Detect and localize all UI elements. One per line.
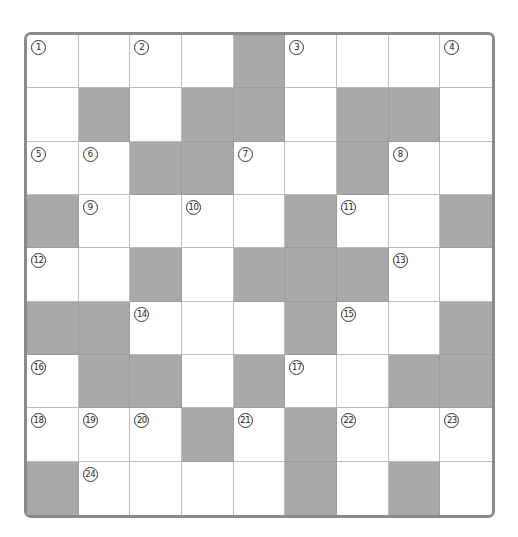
answer-cell[interactable]: 5 [27,142,79,195]
answer-cell[interactable] [337,355,389,408]
answer-cell[interactable]: 22 [337,408,389,461]
clue-number-badge: 6 [83,147,98,162]
answer-cell[interactable]: 24 [79,462,131,515]
answer-cell[interactable]: 23 [440,408,492,461]
block-cell [79,88,131,141]
answer-cell[interactable]: 13 [389,248,441,301]
answer-cell[interactable]: 21 [234,408,286,461]
block-cell [234,248,286,301]
block-cell [130,355,182,408]
answer-cell[interactable] [440,88,492,141]
clue-number-badge: 17 [289,360,304,375]
block-cell [234,88,286,141]
answer-cell[interactable] [389,408,441,461]
answer-cell[interactable]: 11 [337,195,389,248]
block-cell [79,355,131,408]
clue-number-badge: 24 [83,467,98,482]
answer-cell[interactable]: 14 [130,302,182,355]
answer-cell[interactable]: 6 [79,142,131,195]
block-cell [285,408,337,461]
answer-cell[interactable] [389,35,441,88]
clue-number-badge: 4 [444,40,459,55]
answer-cell[interactable] [182,35,234,88]
answer-cell[interactable] [234,462,286,515]
block-cell [27,462,79,515]
answer-cell[interactable]: 8 [389,142,441,195]
answer-cell[interactable] [79,248,131,301]
answer-cell[interactable] [440,142,492,195]
block-cell [337,88,389,141]
block-cell [182,408,234,461]
answer-cell[interactable]: 4 [440,35,492,88]
block-cell [440,195,492,248]
answer-cell[interactable]: 10 [182,195,234,248]
block-cell [234,355,286,408]
answer-cell[interactable] [285,142,337,195]
answer-cell[interactable] [389,302,441,355]
answer-cell[interactable]: 3 [285,35,337,88]
clue-number-badge: 8 [393,147,408,162]
block-cell [285,248,337,301]
answer-cell[interactable]: 2 [130,35,182,88]
block-cell [285,302,337,355]
answer-cell[interactable] [130,462,182,515]
clue-number-badge: 9 [83,200,98,215]
answer-cell[interactable] [182,248,234,301]
answer-cell[interactable] [389,195,441,248]
answer-cell[interactable] [337,462,389,515]
answer-cell[interactable] [234,195,286,248]
answer-cell[interactable]: 16 [27,355,79,408]
clue-number-badge: 22 [341,413,356,428]
block-cell [440,302,492,355]
answer-cell[interactable] [440,248,492,301]
answer-cell[interactable] [182,462,234,515]
clue-number-badge: 21 [238,413,253,428]
answer-cell[interactable] [234,302,286,355]
answer-cell[interactable]: 18 [27,408,79,461]
crossword-grid: 123456789101112131415161718192021222324 [27,35,492,515]
clue-number-badge: 10 [186,200,201,215]
answer-cell[interactable] [27,88,79,141]
answer-cell[interactable]: 19 [79,408,131,461]
block-cell [182,142,234,195]
answer-cell[interactable]: 17 [285,355,337,408]
answer-cell[interactable] [182,355,234,408]
answer-cell[interactable]: 15 [337,302,389,355]
clue-number-badge: 16 [31,360,46,375]
answer-cell[interactable] [182,302,234,355]
answer-cell[interactable] [440,462,492,515]
block-cell [389,462,441,515]
block-cell [389,88,441,141]
crossword-board: 123456789101112131415161718192021222324 [24,32,495,518]
answer-cell[interactable]: 1 [27,35,79,88]
answer-cell[interactable]: 20 [130,408,182,461]
clue-number-badge: 1 [31,40,46,55]
clue-number-badge: 2 [134,40,149,55]
block-cell [285,462,337,515]
answer-cell[interactable] [337,35,389,88]
clue-number-badge: 19 [83,413,98,428]
block-cell [130,248,182,301]
clue-number-badge: 3 [289,40,304,55]
clue-number-badge: 14 [134,307,149,322]
answer-cell[interactable] [130,88,182,141]
clue-number-badge: 23 [444,413,459,428]
clue-number-badge: 11 [341,200,356,215]
answer-cell[interactable] [285,88,337,141]
answer-cell[interactable]: 7 [234,142,286,195]
block-cell [337,248,389,301]
clue-number-badge: 12 [31,253,46,268]
block-cell [27,195,79,248]
clue-number-badge: 20 [134,413,149,428]
answer-cell[interactable]: 9 [79,195,131,248]
answer-cell[interactable] [130,195,182,248]
clue-number-badge: 15 [341,307,356,322]
block-cell [182,88,234,141]
block-cell [337,142,389,195]
clue-number-badge: 7 [238,147,253,162]
clue-number-badge: 18 [31,413,46,428]
answer-cell[interactable]: 12 [27,248,79,301]
answer-cell[interactable] [79,35,131,88]
block-cell [79,302,131,355]
block-cell [27,302,79,355]
